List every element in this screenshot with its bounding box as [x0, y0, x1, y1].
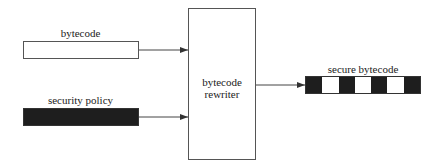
arrows [0, 0, 441, 168]
